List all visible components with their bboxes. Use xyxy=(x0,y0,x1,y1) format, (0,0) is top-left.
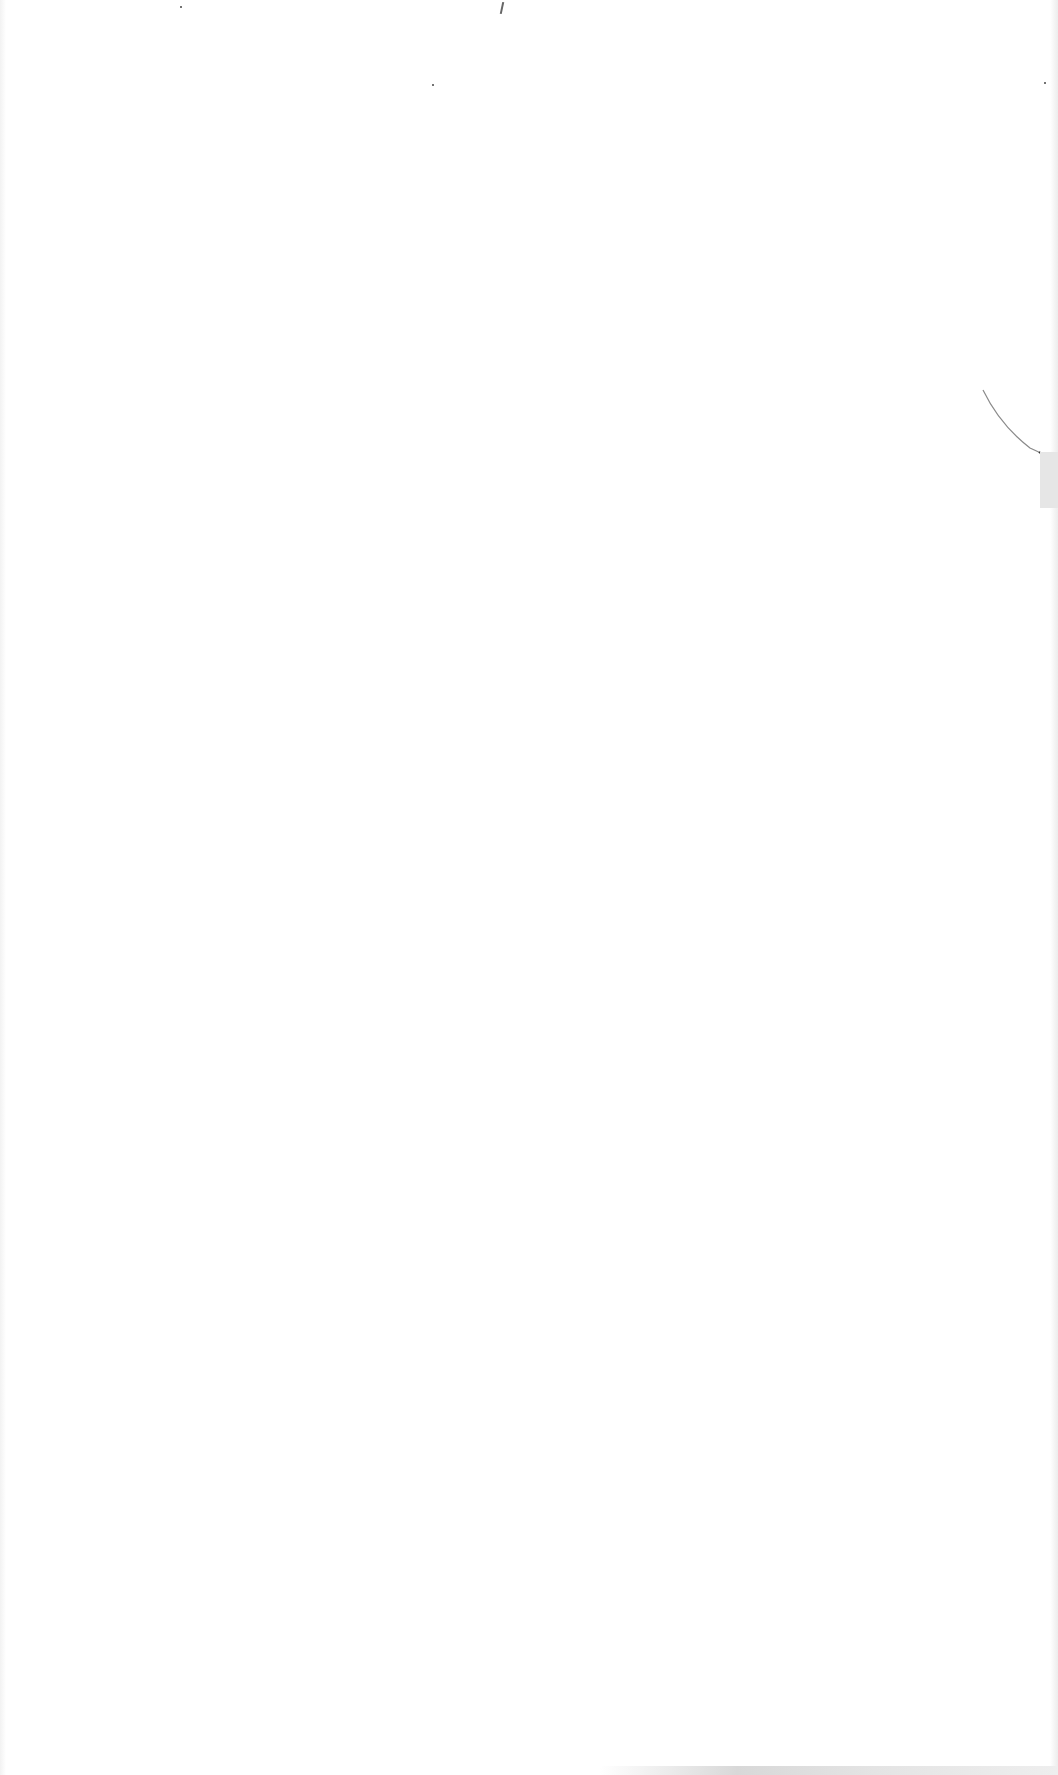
top-scan-mark xyxy=(500,2,504,14)
scan-speck xyxy=(180,6,182,8)
blank-page xyxy=(0,0,1058,1775)
page-edge-tab xyxy=(1040,452,1058,508)
left-edge-shadow xyxy=(0,0,6,1775)
right-edge-shadow xyxy=(1050,0,1058,1775)
curve-scan-mark xyxy=(975,380,1058,460)
scan-speck xyxy=(432,84,434,86)
bottom-edge-shadow xyxy=(600,1766,1058,1775)
scan-speck xyxy=(1044,82,1046,84)
